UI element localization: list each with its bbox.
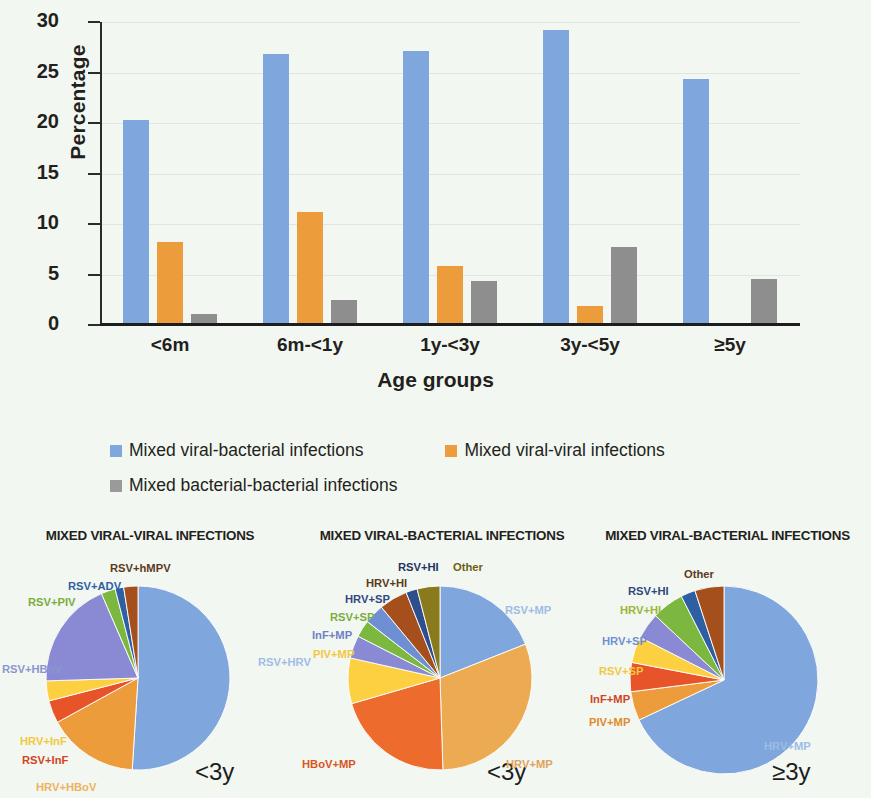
pie-slice-label: Other: [684, 568, 714, 580]
gridline: [100, 22, 800, 23]
gridline: [100, 73, 800, 74]
y-axis-tick: [88, 72, 100, 74]
bar: [751, 279, 777, 325]
y-axis-tick-label: 15: [13, 161, 59, 184]
legend-row-bottom: Mixed bacterial-bacterial infections: [0, 475, 871, 496]
legend-label-bacterial-bacterial: Mixed bacterial-bacterial infections: [129, 475, 397, 496]
pie-slice-label: RSV+InF: [22, 754, 68, 766]
pie-slice-label: InF+MP: [590, 693, 630, 705]
pie-slice-label: HRV+SP: [345, 593, 390, 605]
y-axis-tick-label: 30: [13, 9, 59, 32]
legend-swatch-icon-viral-bacterial: [110, 445, 122, 457]
bar: [471, 281, 497, 325]
y-axis-tick: [88, 274, 100, 276]
legend-item-bacterial-bacterial: Mixed bacterial-bacterial infections: [110, 475, 397, 496]
y-axis-tick: [88, 223, 100, 225]
pie-slice-label: HRV+InF: [20, 735, 67, 747]
pie-panel-viral-bacterial-over3y: MIXED VIRAL-BACTERIAL INFECTIONS ≥3y HRV…: [584, 528, 871, 798]
y-axis-tick-label: 25: [13, 60, 59, 83]
bar: [263, 54, 289, 325]
x-axis-line: [100, 323, 800, 326]
bar: [123, 120, 149, 325]
bar-chart-y-axis-label: Percentage: [66, 22, 90, 182]
x-axis-tick-label: <6m: [100, 334, 240, 356]
pie-slice-label: HRV+HBoV: [36, 781, 96, 793]
pie-slice-label: HRV+SP: [602, 635, 647, 647]
bar: [543, 30, 569, 325]
pie-slice-label: RSV+ADV: [68, 580, 121, 592]
pie-slice-label: HBoV+MP: [302, 758, 356, 770]
legend-item-viral-viral: Mixed viral-viral infections: [445, 440, 664, 461]
pie-slice: [132, 586, 230, 770]
legend-swatch-icon-viral-viral: [445, 445, 457, 457]
bar: [683, 79, 709, 325]
bar: [403, 51, 429, 325]
y-axis-tick: [88, 21, 100, 23]
y-axis-tick: [88, 324, 100, 326]
pie-slice-label: RSV+SP: [599, 665, 643, 677]
y-axis-tick-label: 10: [13, 211, 59, 234]
pie-panel-viral-bacterial-under3y: MIXED VIRAL-BACTERIAL INFECTIONS <3y RSV…: [292, 528, 592, 798]
pie-slice-label: RSV+HBoV: [2, 663, 62, 675]
x-axis-tick-label: 3y-<5y: [520, 334, 660, 356]
pie-slice-label: RSV+SP: [330, 611, 374, 623]
pie-slice-label: RSV+PIV: [28, 596, 76, 608]
pie-chart-row: MIXED VIRAL-VIRAL INFECTIONS <3y RSV+HRV…: [0, 528, 871, 798]
bar-chart-legend: Mixed viral-bacterial infections Mixed v…: [0, 440, 871, 510]
pie-panel-viral-viral-under3y: MIXED VIRAL-VIRAL INFECTIONS <3y RSV+HRV…: [0, 528, 300, 798]
y-axis-tick-label: 20: [13, 110, 59, 133]
pie-slice-label: HRV+HI: [366, 577, 407, 589]
y-axis-tick-label: 5: [13, 262, 59, 285]
pie-slice-label: HRV+MP: [764, 740, 811, 752]
pie-slice-label: Other: [453, 561, 483, 573]
pie-slice-label: RSV+hMPV: [110, 562, 171, 574]
pie-slice-label: PIV+MP: [589, 716, 630, 728]
bar-chart-figure: Percentage Age groups 051015202530<6m6m-…: [0, 0, 871, 400]
bar: [611, 247, 637, 325]
bar: [331, 300, 357, 325]
y-axis-tick: [88, 173, 100, 175]
pie-slice-label: RSV+HI: [398, 561, 439, 573]
pie-slice-label: RSV+HI: [628, 585, 669, 597]
pie-slice-label: PIV+MP: [313, 648, 354, 660]
legend-label-viral-bacterial: Mixed viral-bacterial infections: [129, 440, 363, 461]
bar: [437, 266, 463, 325]
bar-chart-plot-area: [100, 22, 800, 325]
pie-slice-label: RSV+MP: [505, 604, 551, 616]
legend-item-viral-bacterial: Mixed viral-bacterial infections: [110, 440, 363, 461]
y-axis-tick-label: 0: [13, 312, 59, 335]
pie-svg: [584, 528, 871, 798]
legend-row-top: Mixed viral-bacterial infections Mixed v…: [0, 440, 871, 461]
y-axis-tick: [88, 122, 100, 124]
bar: [157, 242, 183, 325]
y-axis-line: [100, 22, 102, 325]
bar: [297, 212, 323, 325]
pie-slice-label: HRV+MP: [506, 758, 553, 770]
x-axis-tick-label: 6m-<1y: [240, 334, 380, 356]
bar-chart-x-axis-label: Age groups: [0, 368, 871, 392]
legend-label-viral-viral: Mixed viral-viral infections: [464, 440, 664, 461]
x-axis-tick-label: 1y-<3y: [380, 334, 520, 356]
pie-slice-label: HRV+HI: [620, 604, 661, 616]
legend-swatch-icon-bacterial-bacterial: [110, 480, 122, 492]
x-axis-tick-label: ≥5y: [660, 334, 800, 356]
pie-slice-label: InF+MP: [312, 629, 352, 641]
